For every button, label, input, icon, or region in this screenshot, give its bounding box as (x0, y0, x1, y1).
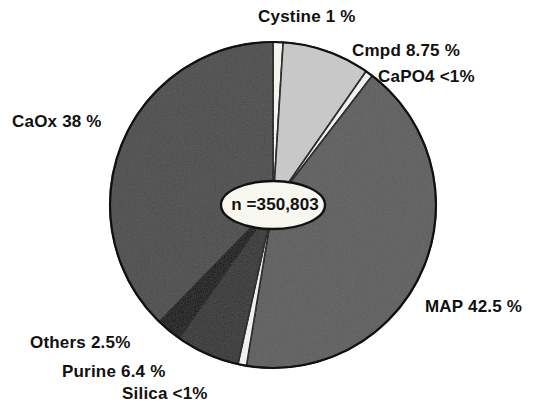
slice-label-cystine: Cystine 1 % (258, 8, 356, 26)
slice-label-purine: Purine 6.4 % (62, 363, 166, 381)
slice-label-silica: Silica <1% (122, 385, 208, 403)
slice-label-map: MAP 42.5 % (425, 298, 522, 316)
center-sample-size-label: n =350,803 (225, 195, 325, 215)
slice-label-others: Others 2.5% (30, 334, 130, 352)
slice-label-caox: CaOx 38 % (12, 113, 102, 131)
slice-label-capo4: CaPO4 <1% (378, 68, 475, 86)
slice-label-cmpd: Cmpd 8.75 % (352, 42, 460, 60)
pie-chart-figure: n =350,803 Cystine 1 % Cmpd 8.75 % CaPO4… (0, 0, 541, 413)
